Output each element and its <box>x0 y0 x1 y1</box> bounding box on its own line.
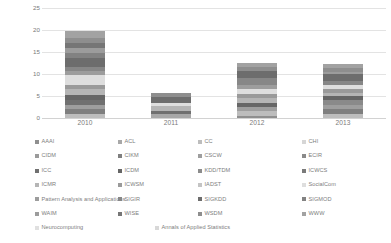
legend-swatch-icon <box>155 226 159 230</box>
stacked-bar-chart: 0510152025 2010201120122013 AAAIACLCCCHI… <box>0 0 391 243</box>
stacked-bar[interactable] <box>237 63 277 118</box>
legend-label: ACL <box>125 139 136 145</box>
legend-swatch-icon <box>198 154 202 158</box>
legend-item[interactable]: Pattern Analysis and Applications <box>35 197 126 203</box>
bar-group <box>42 8 386 118</box>
bar-slot <box>214 8 300 118</box>
y-axis-tick: 20 <box>33 27 40 33</box>
legend-item[interactable]: IADST <box>198 182 221 188</box>
legend-swatch-icon <box>35 197 39 201</box>
legend-item[interactable]: ICWSM <box>118 182 144 188</box>
legend-swatch-icon <box>302 169 306 173</box>
bar-segment[interactable] <box>65 75 105 85</box>
legend-swatch-icon <box>302 140 306 144</box>
legend-label: SIGMOD <box>309 197 332 203</box>
legend-item[interactable]: WWW <box>302 211 325 217</box>
legend-item[interactable]: ICDM <box>118 168 139 174</box>
bar-segment[interactable] <box>65 58 105 67</box>
legend-label: CIDM <box>42 153 57 159</box>
legend-swatch-icon <box>35 169 39 173</box>
legend-label: ICC <box>42 168 52 174</box>
bar-segment[interactable] <box>323 114 363 118</box>
legend-label: IADST <box>205 182 222 188</box>
bar-segment[interactable] <box>151 114 191 118</box>
x-axis: 2010201120122013 <box>42 120 386 132</box>
legend-row: CIDMCIKMCSCWECIR <box>0 153 391 167</box>
legend-swatch-icon <box>118 212 122 216</box>
legend-item[interactable]: CC <box>198 139 213 145</box>
y-axis-tick: 15 <box>33 49 40 55</box>
legend-label: SIGKDD <box>205 197 227 203</box>
plot-area: 0510152025 2010201120122013 <box>0 0 391 133</box>
legend-swatch-icon <box>118 197 122 201</box>
legend-item[interactable]: ICMR <box>35 182 56 188</box>
chart-legend: AAAIACLCCCHICIDMCIKMCSCWECIRICCICDMKDD/T… <box>0 139 391 243</box>
legend-item[interactable]: SIGIR <box>118 197 140 203</box>
legend-label: WAIM <box>42 211 57 217</box>
bar-segment[interactable] <box>237 116 277 118</box>
y-axis-tick: 0 <box>36 115 40 121</box>
legend-item[interactable]: SIGKDD <box>198 197 226 203</box>
legend-row: AAAIACLCCCHI <box>0 139 391 153</box>
x-axis-tick: 2010 <box>42 120 128 127</box>
legend-label: WSDM <box>205 211 223 217</box>
legend-label: CHI <box>309 139 319 145</box>
legend-swatch-icon <box>198 197 202 201</box>
legend-swatch-icon <box>302 154 306 158</box>
gridline <box>42 118 386 119</box>
legend-item[interactable]: WAIM <box>35 211 57 217</box>
bar-segment[interactable] <box>237 78 277 85</box>
bar-segment[interactable] <box>323 74 363 81</box>
legend-row: ICCICDMKDD/TDMICWCS <box>0 168 391 182</box>
legend-item[interactable]: SocialCom <box>302 182 336 188</box>
y-axis-tick: 10 <box>33 71 40 77</box>
legend-swatch-icon <box>118 140 122 144</box>
legend-item[interactable]: CHI <box>302 139 318 145</box>
legend-item[interactable]: SIGMOD <box>302 197 332 203</box>
legend-item[interactable]: WSDM <box>198 211 222 217</box>
legend-swatch-icon <box>118 154 122 158</box>
legend-label: Pattern Analysis and Applications <box>42 197 126 203</box>
legend-swatch-icon <box>198 212 202 216</box>
stacked-bar[interactable] <box>151 93 191 118</box>
legend-swatch-icon <box>198 169 202 173</box>
legend-item[interactable]: CIKM <box>118 153 139 159</box>
legend-swatch-icon <box>198 140 202 144</box>
legend-item[interactable]: CSCW <box>198 153 222 159</box>
x-axis-tick: 2012 <box>214 120 300 127</box>
legend-item[interactable]: ICWCS <box>302 168 327 174</box>
legend-label: Neurocomputing <box>42 225 84 231</box>
legend-swatch-icon <box>35 154 39 158</box>
legend-swatch-icon <box>118 183 122 187</box>
legend-row: NeurocomputingAnnals of Applied Statisti… <box>0 225 391 239</box>
legend-label: ECIR <box>309 153 323 159</box>
y-axis-tick: 5 <box>36 93 40 99</box>
legend-item[interactable]: ACL <box>118 139 136 145</box>
legend-row: ICMRICWSMIADSTSocialCom <box>0 182 391 196</box>
stacked-bar[interactable] <box>65 31 105 118</box>
legend-swatch-icon <box>198 183 202 187</box>
legend-row: Pattern Analysis and ApplicationsSIGIRSI… <box>0 197 391 211</box>
bar-segment[interactable] <box>237 71 277 78</box>
legend-swatch-icon <box>35 212 39 216</box>
stacked-bar[interactable] <box>323 64 363 118</box>
bar-slot <box>42 8 128 118</box>
legend-item[interactable]: ICC <box>35 168 51 174</box>
legend-item[interactable]: AAAI <box>35 139 54 145</box>
legend-label: SocialCom <box>309 182 337 188</box>
legend-swatch-icon <box>302 197 306 201</box>
bar-segment[interactable] <box>65 31 105 38</box>
y-axis-tick: 25 <box>33 5 40 11</box>
legend-label: ICMR <box>42 182 57 188</box>
legend-swatch-icon <box>118 169 122 173</box>
y-axis: 0510152025 <box>18 8 40 118</box>
legend-label: WISE <box>125 211 140 217</box>
legend-item[interactable]: KDD/TDM <box>198 168 230 174</box>
bar-segment[interactable] <box>65 114 105 118</box>
legend-item[interactable]: ECIR <box>302 153 322 159</box>
legend-item[interactable]: WISE <box>118 211 139 217</box>
legend-item[interactable]: Neurocomputing <box>35 225 83 231</box>
legend-item[interactable]: Annals of Applied Statistics <box>155 225 230 231</box>
legend-item[interactable]: CIDM <box>35 153 56 159</box>
legend-label: AAAI <box>42 139 55 145</box>
